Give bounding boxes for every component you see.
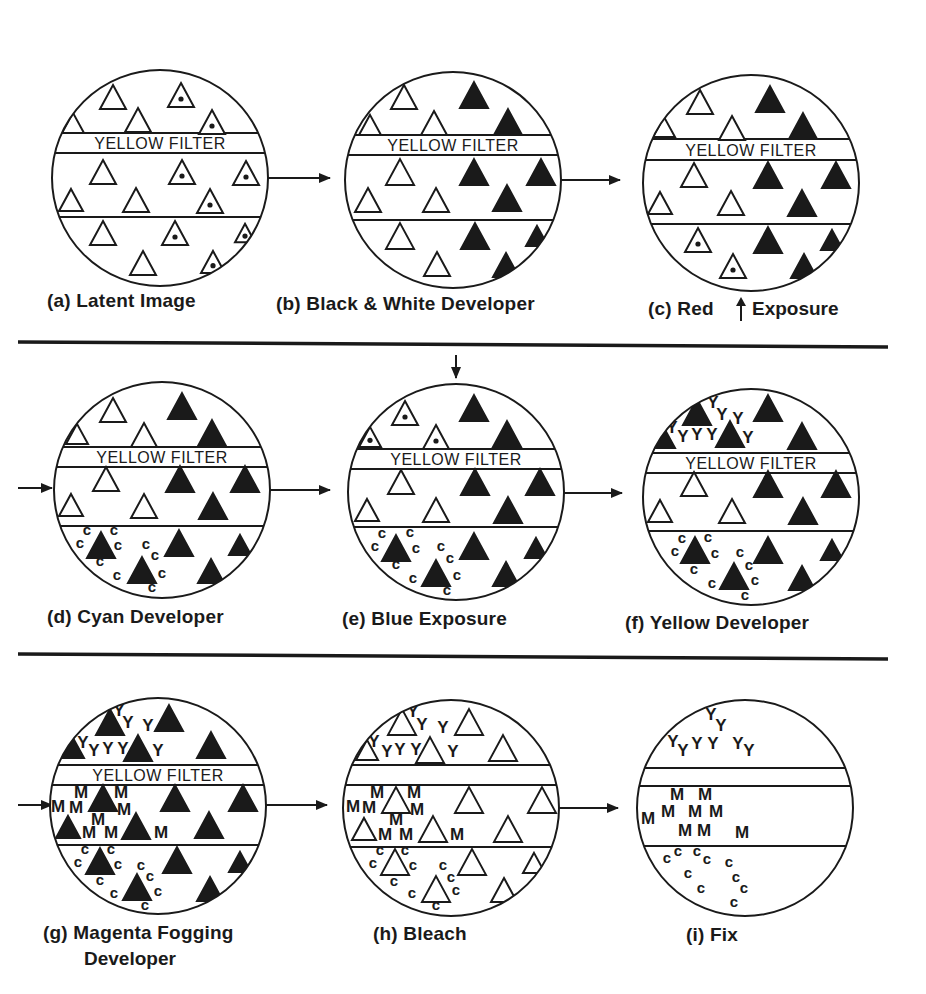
cyan-dye-label: c (443, 581, 451, 598)
stage-c-caption-tail: Exposure (752, 298, 839, 320)
latent-image-dot-icon (210, 263, 215, 268)
color-reversal-process-diagram: YELLOW FILTERYELLOW FILTERYELLOW FILTERY… (0, 0, 926, 994)
yellow-dye-label: Y (152, 741, 164, 760)
magenta-dye-label: M (641, 809, 655, 828)
cyan-dye-label: c (708, 574, 716, 591)
cyan-dye-label: c (408, 884, 416, 901)
row-divider (18, 342, 888, 347)
stage-i-emulsion: YYYYYYYYMMMMMMMMMcccccccccc (637, 700, 853, 916)
cyan-dye-label: c (453, 566, 461, 583)
cyan-dye-label: c (730, 893, 738, 910)
magenta-dye-label: M (697, 821, 711, 840)
cyan-dye-label: c (76, 534, 84, 551)
cyan-dye-label: c (390, 872, 398, 889)
yellow-filter-label: YELLOW FILTER (94, 135, 226, 152)
cyan-dye-label: c (736, 543, 744, 560)
yellow-dye-label: Y (142, 716, 154, 735)
magenta-dye-label: M (346, 797, 360, 816)
yellow-dye-label: Y (394, 740, 406, 759)
cyan-dye-label: c (114, 536, 122, 553)
cyan-dye-label: c (110, 884, 118, 901)
stage-h-emulsion: YYYYYYYYMMMMMMMMMcccccccccc (343, 700, 559, 916)
latent-image-dot-icon (209, 123, 214, 128)
yellow-dye-label: Y (691, 425, 703, 444)
magenta-dye-label: M (410, 800, 424, 819)
cyan-dye-label: c (751, 571, 759, 588)
cyan-dye-label: c (371, 537, 379, 554)
cyan-dye-label: c (96, 552, 104, 569)
magenta-dye-label: M (678, 821, 692, 840)
yellow-filter-label: YELLOW FILTER (387, 137, 519, 154)
stage-e-caption: (e) Blue Exposure (342, 608, 507, 630)
cyan-dye-label: c (704, 528, 712, 545)
yellow-dye-label: Y (437, 718, 449, 737)
yellow-dye-label: Y (447, 742, 459, 761)
cyan-dye-label: c (409, 569, 417, 586)
cyan-dye-label: c (406, 523, 414, 540)
cyan-dye-label: c (141, 896, 149, 913)
yellow-dye-label: Y (102, 739, 114, 758)
cyan-dye-label: c (663, 849, 671, 866)
latent-image-dot-icon (242, 233, 247, 238)
stage-d-caption: (d) Cyan Developer (47, 606, 224, 628)
magenta-dye-label: M (154, 823, 168, 842)
yellow-filter-label: YELLOW FILTER (92, 767, 224, 784)
cyan-dye-label: c (703, 850, 711, 867)
stage-e-emulsion: YELLOW FILTERcccccccccc (348, 384, 564, 600)
stage-c-emulsion: YELLOW FILTER (643, 75, 859, 291)
stage-h-caption: (h) Bleach (373, 923, 467, 945)
diagram-canvas: YELLOW FILTERYELLOW FILTERYELLOW FILTERY… (0, 0, 926, 994)
yellow-dye-label: Y (381, 742, 393, 761)
yellow-dye-label: Y (117, 739, 129, 758)
latent-image-dot-icon (730, 267, 735, 272)
latent-image-dot-icon (178, 96, 183, 101)
cyan-dye-label: c (412, 539, 420, 556)
latent-image-dot-icon (402, 414, 407, 419)
magenta-dye-label: M (709, 802, 723, 821)
yellow-dye-label: Y (742, 428, 754, 447)
magenta-dye-label: M (69, 798, 83, 817)
stage-g-caption-line2: Developer (84, 948, 176, 970)
yellow-dye-label: Y (732, 409, 744, 428)
cyan-dye-label: c (114, 855, 122, 872)
cyan-dye-label: c (740, 879, 748, 896)
yellow-dye-label: Y (88, 741, 100, 760)
yellow-filter-label: YELLOW FILTER (96, 449, 228, 466)
latent-image-dot-icon (433, 438, 438, 443)
magenta-dye-label: M (688, 802, 702, 821)
latent-image-dot-icon (207, 202, 212, 207)
yellow-dye-label: Y (706, 425, 718, 444)
yellow-dye-label: Y (716, 405, 728, 424)
yellow-filter-label: YELLOW FILTER (685, 142, 817, 159)
cyan-dye-label: c (137, 856, 145, 873)
stage-c-caption: (c) Red (648, 298, 714, 320)
yellow-filter-label: YELLOW FILTER (390, 451, 522, 468)
cyan-dye-label: c (432, 896, 440, 913)
yellow-filter-label: YELLOW FILTER (685, 455, 817, 472)
latent-image-dot-icon (695, 241, 700, 246)
magenta-dye-label: M (661, 802, 675, 821)
cyan-dye-label: c (741, 586, 749, 603)
cyan-dye-label: c (674, 842, 682, 859)
latent-image-dot-icon (243, 174, 248, 179)
magenta-dye-label: M (117, 800, 131, 819)
cyan-dye-label: c (690, 560, 698, 577)
stage-a-caption: (a) Latent Image (47, 290, 196, 312)
latent-image-dot-icon (367, 438, 372, 443)
cyan-dye-label: c (671, 542, 679, 559)
cyan-dye-label: c (684, 864, 692, 881)
stage-d-emulsion: YELLOW FILTERcccccccccc (54, 382, 270, 598)
process-stages: YELLOW FILTERYELLOW FILTERYELLOW FILTERY… (50, 70, 859, 916)
cyan-dye-label: c (151, 546, 159, 563)
cyan-dye-label: c (392, 555, 400, 572)
yellow-dye-label: Y (410, 740, 422, 759)
yellow-dye-label: Y (416, 715, 428, 734)
cyan-dye-label: c (446, 549, 454, 566)
cyan-dye-label: c (409, 856, 417, 873)
cyan-dye-label: c (154, 882, 162, 899)
yellow-dye-label: Y (715, 716, 727, 735)
stage-f-caption: (f) Yellow Developer (625, 612, 809, 634)
stage-b-emulsion: YELLOW FILTER (345, 72, 561, 288)
magenta-dye-label: M (735, 823, 749, 842)
stage-b-caption: (b) Black & White Developer (276, 293, 535, 315)
